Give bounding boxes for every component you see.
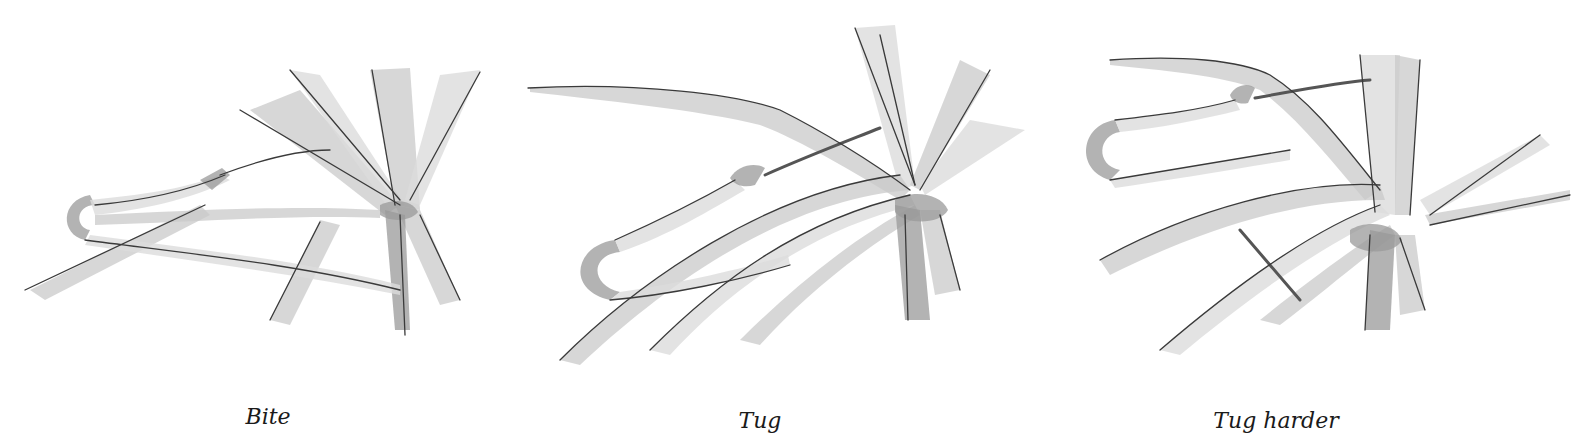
panel-tug-harder: Tug harder [1050,0,1577,439]
snare-illustration-bite [0,0,500,380]
caption-tug: Tug [739,408,782,433]
snare-illustration-tug [520,0,1040,380]
snare-illustration-tug-harder [1050,0,1577,380]
caption-tug-harder: Tug harder [1213,408,1338,433]
panel-bite: Bite [0,0,500,439]
panel-tug: Tug [520,0,1040,439]
caption-bite: Bite [245,404,290,429]
